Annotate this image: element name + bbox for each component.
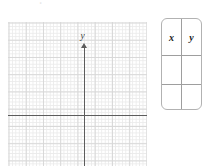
worksheet-canvas: ˚ x y x y [0, 0, 210, 166]
table-cell-x-2[interactable] [162, 85, 182, 111]
table-header-row: x y [162, 19, 201, 56]
y-axis-arrow-icon [81, 43, 87, 48]
xy-value-table[interactable]: x y [161, 18, 202, 110]
stray-pencil-mark: ˚ [39, 2, 46, 8]
grid-major-lines [8, 22, 147, 166]
table-row[interactable] [162, 85, 201, 111]
table-header-x: x [162, 19, 182, 56]
coordinate-plane-grid[interactable]: x y [8, 22, 147, 166]
table-cell-y-1[interactable] [182, 56, 202, 85]
table-header-y: y [182, 19, 202, 56]
x-axis-line [8, 115, 147, 116]
y-axis-label: y [81, 32, 85, 42]
table-cell-x-1[interactable] [162, 56, 182, 85]
y-axis-line [84, 48, 85, 166]
table-row[interactable] [162, 56, 201, 85]
table-cell-y-2[interactable] [182, 85, 202, 111]
